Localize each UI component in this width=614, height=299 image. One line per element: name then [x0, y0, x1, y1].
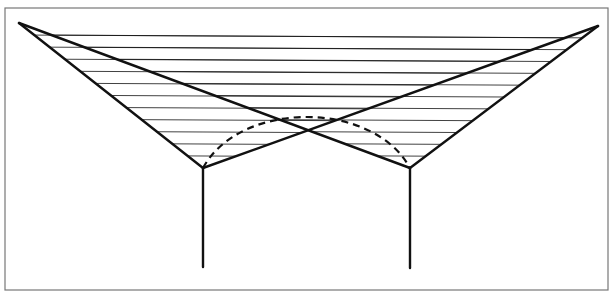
- right-hypar-ruling-line: [117, 59, 551, 61]
- right-hypar-ruling-line: [84, 47, 567, 50]
- hypar-structure-drawing: [0, 0, 614, 299]
- right-hypar-ruling-line: [52, 35, 583, 38]
- ruling-lines: [34, 35, 582, 156]
- edge-beam: [19, 23, 410, 168]
- diagram-canvas: [0, 0, 614, 299]
- right-hypar-ruling-line: [312, 132, 457, 133]
- edge-beam: [203, 26, 598, 168]
- dashed-arch-curve: [203, 117, 410, 168]
- right-hypar-ruling-line: [345, 144, 442, 145]
- left-hypar-ruling-line: [157, 132, 302, 133]
- left-hypar-ruling-line: [172, 144, 269, 145]
